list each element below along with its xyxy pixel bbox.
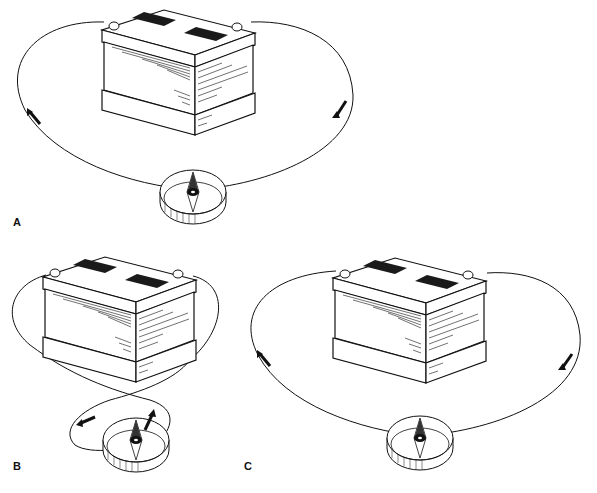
figure: A B C xyxy=(0,0,597,493)
arrow-c-right-icon xyxy=(563,354,572,367)
arrow-b-left-icon xyxy=(81,417,95,423)
battery-compass-diagram xyxy=(0,0,597,493)
panel-c xyxy=(251,258,580,470)
panel-b xyxy=(12,257,218,472)
arrow-left-icon xyxy=(30,112,40,124)
arrow-c-left-icon xyxy=(260,354,270,366)
arrow-right-icon xyxy=(337,101,346,115)
panel-label-b: B xyxy=(13,460,21,472)
panel-a xyxy=(17,10,353,224)
panel-label-a: A xyxy=(13,216,21,228)
panel-label-c: C xyxy=(244,460,252,472)
